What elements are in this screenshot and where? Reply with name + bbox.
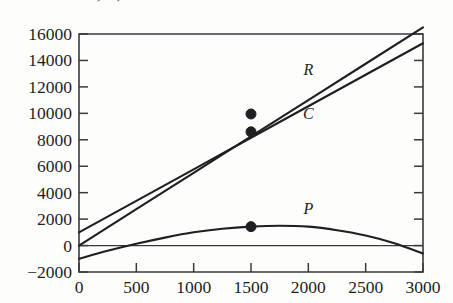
y-axis-tick-labels: −200002000400060008000100001200014000160… — [27, 24, 72, 282]
curve-annotations: RCP — [302, 61, 314, 217]
data-markers — [246, 109, 256, 232]
y-tick-label: 16000 — [28, 24, 72, 44]
y-tick-label: 2000 — [37, 209, 72, 229]
x-tick-label: 1000 — [176, 277, 211, 297]
curve-label-r: R — [302, 61, 313, 78]
y-tick-label: 8000 — [37, 130, 72, 150]
x-tick-label: 0 — [75, 277, 84, 297]
y-tick-label: 12000 — [28, 77, 72, 97]
x-axis-tick-labels: 050010001500200025003000 — [75, 277, 441, 297]
chart-figure: R, C, and P −200002000400060008000100001… — [0, 0, 453, 303]
marker-p — [246, 222, 256, 232]
curve-label-p: P — [302, 200, 313, 217]
curve-label-c: C — [303, 105, 314, 122]
x-tick-label: 2000 — [291, 277, 326, 297]
y-tick-label: 14000 — [28, 50, 72, 70]
y-tick-label: 10000 — [28, 103, 72, 123]
y-tick-label: 4000 — [37, 183, 72, 203]
revenue-cost-profit-chart: −200002000400060008000100001200014000160… — [0, 0, 453, 303]
marker-r — [246, 109, 256, 119]
x-tick-label: 2500 — [348, 277, 383, 297]
y-tick-label: −2000 — [27, 262, 72, 282]
y-tick-label: 0 — [63, 236, 72, 256]
x-tick-label: 3000 — [406, 277, 441, 297]
curve-c — [79, 43, 423, 232]
x-tick-label: 1500 — [234, 277, 269, 297]
y-tick-label: 6000 — [37, 156, 72, 176]
x-tick-label: 500 — [123, 277, 150, 297]
marker-c — [246, 127, 256, 137]
x-axis-ticks — [79, 263, 423, 272]
figure-title-fragment: R, C, and P — [86, 0, 386, 6]
